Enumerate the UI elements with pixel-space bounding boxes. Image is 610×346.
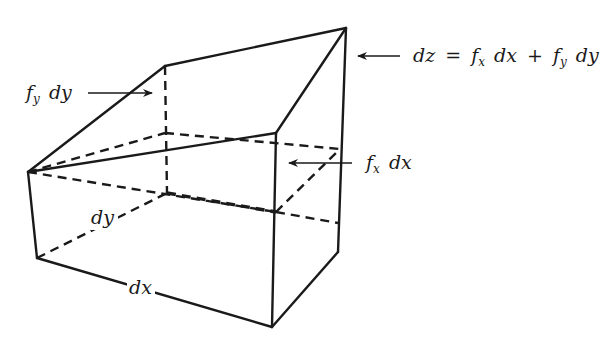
edge-top-back — [165, 28, 346, 66]
edge-bottom-right-depth — [272, 252, 338, 327]
edge-front-right-vertical — [272, 133, 276, 327]
total-differential-diagram: dz = fx dx + fy dy fy dy fx dx dy dx — [0, 0, 610, 346]
label-total-differential: dz = fx dx + fy dy — [413, 44, 599, 70]
dashed-edges — [28, 66, 340, 258]
edge-floor-right — [276, 212, 338, 223]
edge-back-left-vertical-hidden — [165, 66, 167, 193]
edge-front-top — [28, 133, 276, 172]
edge-front-left-vertical — [28, 172, 37, 258]
label-fx-dx: fx dx — [364, 151, 412, 177]
solid-edges — [28, 28, 346, 327]
label-dx-edge: dx — [129, 276, 152, 298]
edge-back-right-vertical — [338, 28, 346, 252]
edge-top-right-diagonal — [276, 28, 346, 133]
label-fy-dy: fy dy — [24, 81, 72, 107]
edge-right-base-diagonal — [276, 149, 340, 212]
label-dy-edge: dy — [91, 206, 114, 228]
edge-front-base-plane — [28, 172, 276, 212]
